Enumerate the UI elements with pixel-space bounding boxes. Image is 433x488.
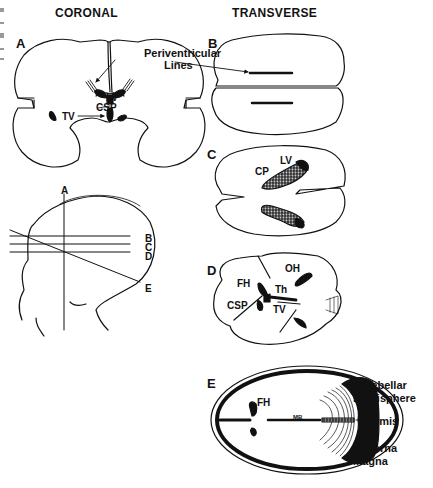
header-transverse: TRANSVERSE [232,7,317,19]
label-mb: MB [293,414,302,420]
label-cp: CP [255,167,269,177]
plane-label-e: E [145,284,152,294]
panel-letter-e: E [207,377,216,390]
label-lv-c: LV [280,156,292,166]
panel-letter-c: C [207,148,216,161]
label-fh-e: FH [257,398,270,408]
label-oh: OH [285,264,300,274]
label-tv: TV [62,112,75,122]
panel-letter-a: A [16,37,25,50]
label-cerebellar: Cerebellar [353,380,407,391]
label-lines: Lines [164,60,193,71]
label-csp-d: CSP [227,301,248,311]
label-hemisphere: Hemisphere [353,393,416,404]
label-csp: CSP [96,103,117,113]
panel-letter-d: D [207,264,216,277]
label-th: Th [275,285,287,295]
label-tv-d: TV [273,305,286,315]
head-profile [10,194,155,336]
plane-label-a: A [61,186,68,196]
label-cisterna: Cisterna [353,443,397,454]
panel-letter-b: B [208,37,217,50]
label-vermis: Vermis [362,416,398,427]
label-magna: Magna [353,456,388,467]
plane-label-d: D [145,252,152,262]
header-coronal: CORONAL [55,7,118,19]
label-fh-d: FH [237,279,250,289]
transverse-section-d [214,253,341,344]
